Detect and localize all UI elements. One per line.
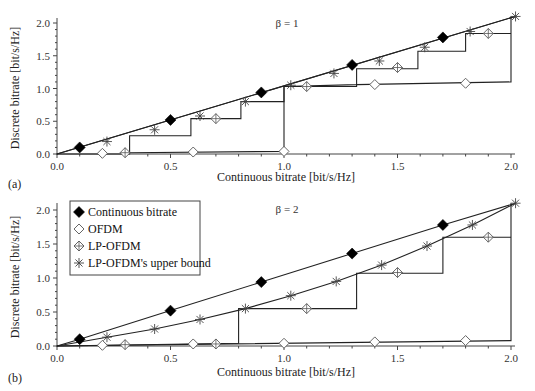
asterisk-marker (511, 198, 521, 208)
y-tick-label: 0.5 (36, 306, 50, 318)
y-tick-label: 2.0 (36, 204, 50, 216)
filled-diamond-marker (256, 277, 267, 288)
asterisk-marker (195, 314, 205, 324)
asterisk-marker (465, 27, 475, 37)
y-tick-label: 2.0 (36, 17, 50, 29)
crossed-diamond-marker (120, 340, 130, 350)
y-tick-label: 1.5 (36, 238, 50, 250)
crossed-diamond-marker (302, 82, 312, 92)
x-axis-label: Continuous bitrate [bit/s/Hz] (217, 170, 355, 184)
asterisk-marker (195, 111, 205, 121)
crossed-diamond-marker (211, 114, 221, 124)
x-tick-label: 2.0 (504, 160, 518, 172)
open-diamond-marker (461, 336, 471, 346)
asterisk-marker (377, 260, 387, 270)
series-markers-ofdm (97, 336, 470, 351)
legend-label: Continuous bitrate (88, 205, 177, 219)
legend-entry: Continuous bitrate (74, 205, 178, 219)
legend-label: LP-OFDM (88, 239, 141, 253)
filled-diamond-marker (165, 114, 176, 125)
chart-panel-a: 0.00.51.01.52.00.00.51.01.52.0Continuous… (8, 11, 521, 191)
open-diamond-marker (188, 147, 198, 157)
asterisk-marker (102, 137, 112, 147)
chart-panel-b: 0.00.51.01.52.00.00.51.01.52.0Continuous… (8, 198, 521, 385)
asterisk-marker (467, 220, 477, 230)
crossed-diamond-marker (120, 148, 130, 158)
open-diamond-marker (188, 339, 198, 349)
series-markers-lp-ofdm-s-upper-bound (102, 11, 521, 146)
x-tick-label: 2.0 (504, 352, 518, 364)
x-tick-label: 1.0 (277, 352, 291, 364)
crossed-diamond-marker (302, 304, 312, 314)
x-tick-label: 1.5 (391, 352, 405, 364)
x-axis-label: Continuous bitrate [bit/s/Hz] (217, 365, 355, 379)
asterisk-marker (150, 125, 160, 135)
figure: 0.00.51.01.52.00.00.51.01.52.0Continuous… (0, 0, 535, 391)
beta-annotation: β = 2 (276, 203, 299, 215)
filled-diamond-marker (256, 87, 267, 98)
x-tick-label: 0.0 (50, 160, 64, 172)
asterisk-marker (374, 56, 384, 66)
legend-label: LP-OFDM's upper bound (88, 256, 211, 270)
y-tick-label: 1.0 (36, 272, 50, 284)
y-axis-label: Discrete bitrate [bit/s/Hz] (8, 216, 22, 339)
y-axis-label: Discrete bitrate [bit/s/Hz] (8, 27, 22, 150)
y-tick-label: 0.0 (36, 340, 50, 352)
series-line-lp-ofdm (130, 34, 511, 153)
y-tick-label: 1.5 (36, 50, 50, 62)
crossed-diamond-marker (211, 339, 221, 349)
x-tick-label: 0.0 (50, 352, 64, 364)
asterisk-marker (240, 304, 250, 314)
x-tick-label: 0.5 (164, 160, 178, 172)
asterisk-legend-icon (74, 258, 84, 268)
open-diamond-marker (461, 78, 471, 88)
open-diamond-marker (279, 338, 289, 348)
open-diamond-marker (370, 337, 380, 347)
series-markers-lp-ofdm (120, 28, 493, 157)
asterisk-marker (331, 276, 341, 286)
crossed-diamond-marker (483, 232, 493, 242)
open-diamond-marker (279, 146, 289, 156)
asterisk-marker (150, 324, 160, 334)
asterisk-marker (422, 241, 432, 251)
crossed-diamond-marker (393, 268, 403, 278)
crossed-diamond-marker (393, 63, 403, 73)
open-diamond-marker (97, 340, 107, 350)
legend-label: OFDM (88, 222, 123, 236)
filled-diamond-marker (74, 142, 85, 153)
panel-label: (b) (8, 371, 22, 385)
y-tick-label: 1.0 (36, 83, 50, 95)
panel-label: (a) (8, 177, 21, 191)
asterisk-marker (240, 97, 250, 107)
series-markers-continuous-bitrate (74, 32, 448, 153)
beta-annotation: β = 1 (276, 17, 299, 29)
open-diamond-marker (370, 80, 380, 90)
asterisk-marker (329, 68, 339, 78)
legend-entry: LP-OFDM's upper bound (74, 256, 211, 270)
asterisk-marker (420, 42, 430, 52)
y-tick-label: 0.5 (36, 115, 50, 127)
open-diamond-marker (97, 148, 107, 158)
filled-diamond-marker (437, 219, 448, 230)
crossed-diamond-marker (483, 28, 493, 38)
asterisk-marker (102, 332, 112, 342)
filled-diamond-marker (437, 32, 448, 43)
asterisk-marker (286, 291, 296, 301)
asterisk-marker (511, 11, 521, 21)
y-tick-label: 0.0 (36, 148, 50, 160)
filled-diamond-marker (347, 59, 358, 70)
filled-diamond-marker (165, 305, 176, 316)
legend: Continuous bitrateOFDMLP-OFDMLP-OFDM's u… (70, 201, 211, 275)
filled-diamond-marker (347, 248, 358, 259)
x-tick-label: 0.5 (164, 352, 178, 364)
x-tick-label: 1.5 (391, 160, 405, 172)
asterisk-marker (286, 80, 296, 90)
